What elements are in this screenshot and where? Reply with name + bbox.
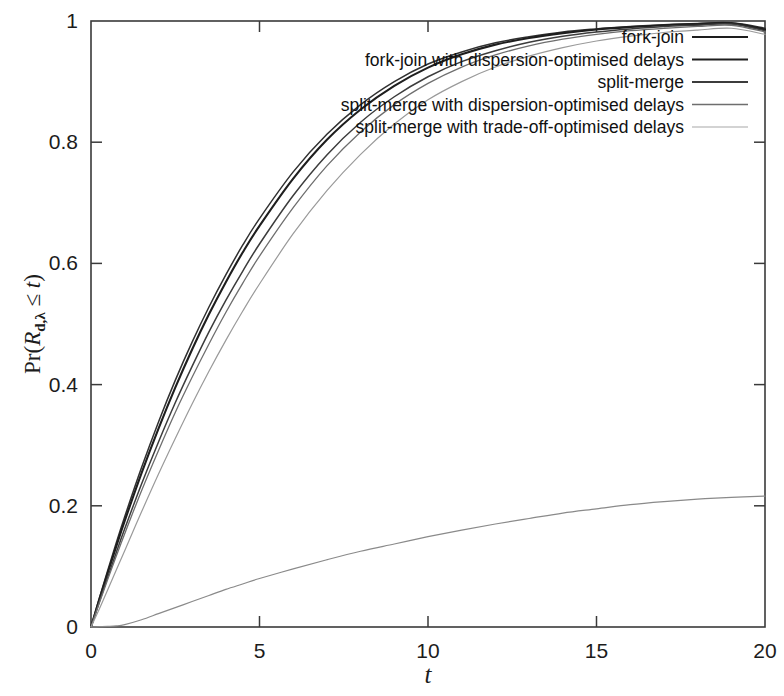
curve-trade-off-slow bbox=[91, 496, 765, 627]
x-tick-label: 15 bbox=[585, 639, 608, 662]
y-axis-title: Pr(Rd,λ ≤ t) bbox=[20, 274, 48, 374]
y-axis-ticks bbox=[91, 142, 765, 506]
legend-label: fork-join bbox=[622, 27, 684, 47]
legend-label: split-merge with dispersion-optimised de… bbox=[341, 95, 685, 115]
y-tick-label: 0.4 bbox=[49, 373, 79, 396]
y-title-r: R bbox=[20, 332, 45, 347]
y-title-subscript: d,λ bbox=[32, 312, 48, 332]
svg-text:Pr(Rd,λ ≤ t): Pr(Rd,λ ≤ t) bbox=[20, 274, 48, 374]
y-tick-label: 0.2 bbox=[49, 494, 78, 517]
y-title-rel: ≤ bbox=[20, 288, 45, 312]
legend-label: split-merge with trade-off-optimised del… bbox=[356, 117, 685, 137]
x-axis-title: t bbox=[425, 661, 433, 688]
legend-label: fork-join with dispersion-optimised dela… bbox=[365, 50, 684, 70]
y-axis-tick-labels: 00.20.40.60.81 bbox=[49, 9, 79, 638]
y-tick-label: 0 bbox=[66, 615, 78, 638]
x-tick-label: 20 bbox=[753, 639, 776, 662]
x-axis-tick-labels: 05101520 bbox=[85, 639, 777, 662]
y-tick-label: 0.6 bbox=[49, 251, 78, 274]
y-tick-label: 1 bbox=[66, 9, 78, 32]
legend-label: split-merge bbox=[597, 72, 684, 92]
x-tick-label: 10 bbox=[416, 639, 439, 662]
chart-canvas: 05101520 00.20.40.60.81 t Pr(Rd,λ ≤ t) f… bbox=[0, 0, 784, 696]
x-tick-label: 0 bbox=[85, 639, 97, 662]
y-title-close: ) bbox=[20, 274, 45, 282]
x-tick-label: 5 bbox=[254, 639, 266, 662]
cdf-chart-figure: 05101520 00.20.40.60.81 t Pr(Rd,λ ≤ t) f… bbox=[0, 0, 784, 696]
y-title-pr: Pr( bbox=[20, 346, 45, 374]
y-tick-label: 0.8 bbox=[49, 130, 78, 153]
